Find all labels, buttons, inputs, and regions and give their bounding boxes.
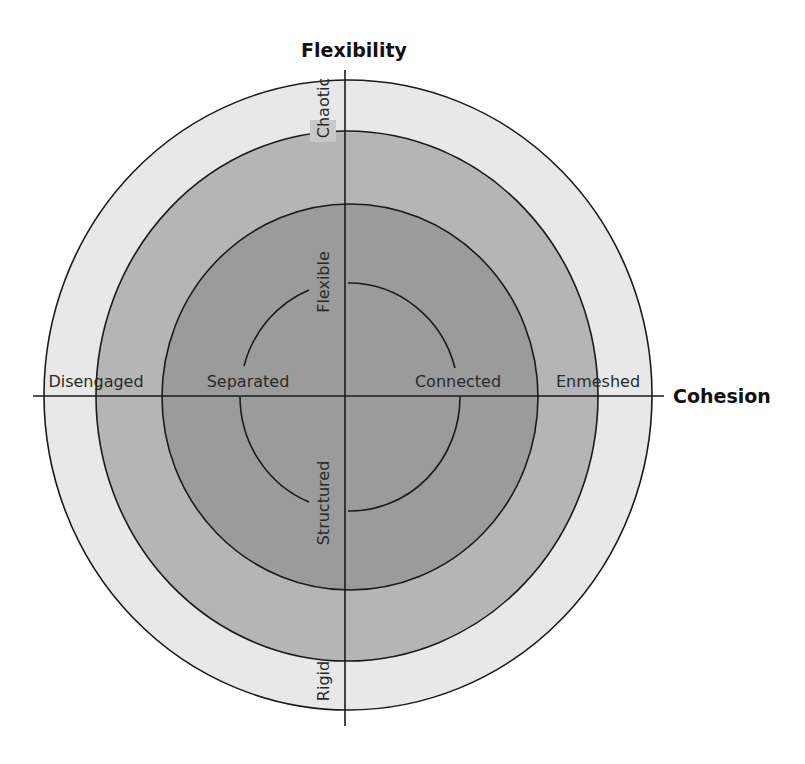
circumplex-diagram: Flexibility Cohesion Disengaged Separate… bbox=[0, 0, 805, 764]
label-flexible: Flexible bbox=[314, 251, 333, 313]
axis-title-flexibility: Flexibility bbox=[301, 39, 407, 61]
label-disengaged: Disengaged bbox=[48, 372, 143, 391]
label-chaotic: Chaotic bbox=[314, 78, 333, 138]
core-balanced bbox=[162, 204, 538, 590]
label-separated: Separated bbox=[207, 372, 290, 391]
label-enmeshed: Enmeshed bbox=[556, 372, 640, 391]
axis-title-cohesion: Cohesion bbox=[673, 385, 771, 407]
label-connected: Connected bbox=[415, 372, 501, 391]
label-rigid: Rigid bbox=[314, 661, 333, 701]
label-structured: Structured bbox=[314, 461, 333, 546]
